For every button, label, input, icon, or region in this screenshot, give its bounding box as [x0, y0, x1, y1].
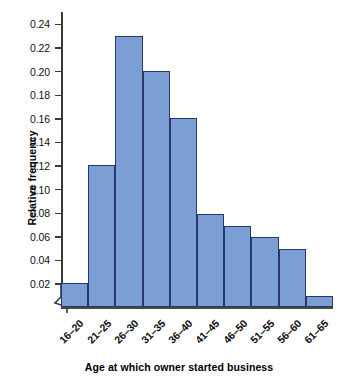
histogram-bar: [61, 283, 88, 307]
y-axis-tick-label: 0.20: [30, 66, 50, 78]
x-axis-tick-label: 51–55: [247, 317, 276, 346]
x-axis-title: Age at which owner started business: [0, 361, 358, 373]
histogram-bar: [197, 214, 224, 307]
histogram-bar: [306, 296, 333, 307]
y-axis-tick-label: 0.10: [30, 184, 50, 196]
y-axis-tick-label: 0.12: [30, 160, 50, 172]
x-axis-tick-label: 16–20: [57, 317, 86, 346]
x-axis-tick-label: 21–25: [84, 317, 113, 346]
x-axis-tick-label: 36–40: [166, 317, 195, 346]
histogram-bar: [88, 165, 115, 307]
histogram-bar: [279, 249, 306, 307]
y-axis-tick-label: 0.16: [30, 113, 50, 125]
histogram-chart: Relative frequency 0.240.220.200.180.160…: [0, 0, 358, 379]
y-axis-tick-label: 0.24: [30, 18, 50, 30]
x-axis-line: [61, 307, 333, 309]
y-axis-tick-label: 0.02: [30, 278, 50, 290]
y-axis-title: Relative frequency: [26, 83, 38, 273]
y-axis-tick-label: 0.14: [30, 136, 50, 148]
plot-area: 0.240.220.200.180.160.140.120.100.080.06…: [61, 12, 333, 308]
x-axis-tick-label: 41–45: [193, 317, 222, 346]
histogram-bar: [143, 71, 170, 307]
x-axis-tick-label: 61–65: [302, 317, 331, 346]
y-axis-tick-label: 0.18: [30, 89, 50, 101]
x-axis-tick-label: 56–60: [275, 317, 304, 346]
histogram-bar: [115, 36, 142, 307]
bar-series: [61, 12, 333, 307]
y-axis-tick-label: 0.06: [30, 231, 50, 243]
histogram-bar: [224, 226, 251, 307]
histogram-bar: [251, 237, 278, 307]
y-axis-tick-label: 0.04: [30, 254, 50, 266]
x-axis-tick-label: 26–30: [111, 317, 140, 346]
y-axis-tick-label: 0.22: [30, 42, 50, 54]
x-axis-tick-label: 31–35: [139, 317, 168, 346]
histogram-bar: [170, 118, 197, 307]
x-axis-tick-label: 46–50: [220, 317, 249, 346]
y-axis-tick-label: 0.08: [30, 207, 50, 219]
